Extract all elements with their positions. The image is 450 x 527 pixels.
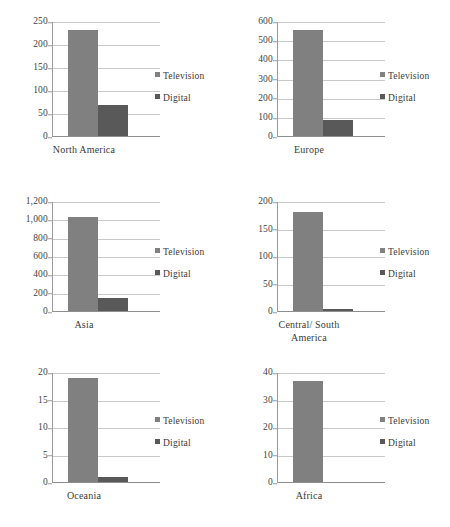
- category-label-line: North America: [14, 143, 154, 156]
- bar-digital: [323, 309, 353, 311]
- legend-item-television: Television: [380, 248, 429, 258]
- y-axis-tick-label: 200: [258, 197, 273, 207]
- y-axis-tick-label: 50: [38, 109, 48, 119]
- bar-digital: [98, 105, 128, 136]
- y-axis-tick-label: 1,200: [26, 197, 48, 207]
- legend-label: Digital: [388, 270, 416, 280]
- legend-item-digital: Digital: [380, 439, 429, 449]
- category-label: Europe: [239, 143, 379, 156]
- legend-item-television: Television: [155, 417, 204, 427]
- legend-swatch-digital-icon: [380, 439, 385, 444]
- chart-panel-asia: 1,2001,0008006004002000AsiaTelevisionDig…: [0, 180, 225, 355]
- legend-swatch-digital-icon: [380, 270, 385, 275]
- category-label: Asia: [14, 318, 154, 331]
- legend-swatch-television-icon: [155, 248, 160, 253]
- bar-group: [53, 22, 160, 136]
- y-axis-tick-label: 400: [258, 56, 273, 66]
- legend: TelevisionDigital: [155, 248, 204, 279]
- bar-group: [278, 373, 385, 482]
- category-label: North America: [14, 143, 154, 156]
- chart-panel-africa: 403020100AfricaTelevisionDigital: [225, 355, 450, 527]
- y-axis: 1,2001,0008006004002000: [14, 202, 52, 312]
- legend-swatch-television-icon: [155, 417, 160, 422]
- y-axis-tick-label: 200: [258, 94, 273, 104]
- plot-area: [52, 202, 160, 312]
- y-axis-tick-label: 10: [263, 451, 273, 461]
- legend-swatch-digital-icon: [380, 94, 385, 99]
- y-axis: 20151050: [14, 373, 52, 483]
- plot-area: [277, 22, 385, 137]
- y-axis: 250200150100500: [14, 22, 52, 137]
- y-axis-tick-label: 400: [33, 271, 48, 281]
- y-axis-tick-label: 200: [33, 40, 48, 50]
- bar-television: [293, 30, 323, 136]
- category-label: Africa: [239, 489, 379, 502]
- y-axis-tick-label: 15: [38, 396, 48, 406]
- y-axis-tick-label: 0: [43, 307, 48, 317]
- legend-swatch-television-icon: [380, 417, 385, 422]
- y-axis-tick-label: 5: [43, 451, 48, 461]
- legend-label: Television: [388, 248, 429, 258]
- y-axis-tick-label: 0: [43, 132, 48, 142]
- legend-label: Digital: [388, 94, 416, 104]
- legend-swatch-television-icon: [380, 248, 385, 253]
- plot-wrapper: 200150100500: [239, 202, 385, 312]
- plot-wrapper: 20151050: [14, 373, 160, 483]
- y-axis-tick-label: 0: [43, 478, 48, 488]
- category-label-line: Europe: [239, 143, 379, 156]
- chart-panel-europe: 6005004003002001000EuropeTelevisionDigit…: [225, 0, 450, 180]
- legend-swatch-digital-icon: [155, 270, 160, 275]
- chart-panel-north-america: 250200150100500North AmericaTelevisionDi…: [0, 0, 225, 180]
- y-axis-tick-label: 40: [263, 368, 273, 378]
- category-label: Oceania: [14, 489, 154, 502]
- legend-swatch-digital-icon: [155, 94, 160, 99]
- bar-television: [68, 217, 98, 311]
- y-axis-tick-label: 150: [33, 63, 48, 73]
- bar-digital: [98, 477, 128, 482]
- chart-panel-central-south-america: 200150100500Central/ SouthAmericaTelevis…: [225, 180, 450, 355]
- bar-group: [53, 202, 160, 311]
- y-axis-tick-label: 100: [258, 113, 273, 123]
- category-label-line: Central/ South: [235, 318, 383, 331]
- plot-wrapper: 1,2001,0008006004002000: [14, 202, 160, 312]
- y-axis-tick-label: 20: [263, 423, 273, 433]
- legend: TelevisionDigital: [380, 417, 429, 448]
- y-axis-tick-label: 600: [258, 17, 273, 27]
- bar-digital: [323, 120, 353, 136]
- bar-group: [278, 202, 385, 311]
- legend-label: Television: [388, 417, 429, 427]
- legend-swatch-digital-icon: [155, 439, 160, 444]
- bar-television: [293, 212, 323, 311]
- plot-area: [52, 22, 160, 137]
- legend: TelevisionDigital: [155, 417, 204, 448]
- y-axis-tick-label: 600: [33, 252, 48, 262]
- category-label-line: Asia: [14, 318, 154, 331]
- y-axis-tick-label: 20: [38, 368, 48, 378]
- x-axis-baseline: [278, 311, 385, 312]
- y-axis: 403020100: [239, 373, 277, 483]
- legend-item-television: Television: [380, 72, 429, 82]
- legend-label: Digital: [163, 439, 191, 449]
- bar-group: [278, 22, 385, 136]
- small-multiples-chart-grid: 250200150100500North AmericaTelevisionDi…: [0, 0, 450, 527]
- y-axis-tick-label: 30: [263, 396, 273, 406]
- y-axis-tick-label: 300: [258, 75, 273, 85]
- legend-item-digital: Digital: [155, 439, 204, 449]
- category-label-line: America: [235, 331, 383, 344]
- y-axis-tick-label: 500: [258, 36, 273, 46]
- y-axis-tick-label: 200: [33, 289, 48, 299]
- x-axis-baseline: [53, 311, 160, 312]
- legend-item-television: Television: [380, 417, 429, 427]
- category-label: Central/ SouthAmerica: [235, 318, 383, 344]
- y-axis-tick-label: 0: [268, 132, 273, 142]
- plot-wrapper: 250200150100500: [14, 22, 160, 137]
- bar-digital: [98, 298, 128, 311]
- y-axis-tick-label: 150: [258, 225, 273, 235]
- bar-television: [68, 378, 98, 482]
- plot-wrapper: 6005004003002001000: [239, 22, 385, 137]
- legend-item-television: Television: [155, 248, 204, 258]
- legend-label: Television: [163, 248, 204, 258]
- legend-swatch-television-icon: [155, 72, 160, 77]
- x-axis-baseline: [53, 136, 160, 137]
- y-axis-tick-label: 100: [258, 252, 273, 262]
